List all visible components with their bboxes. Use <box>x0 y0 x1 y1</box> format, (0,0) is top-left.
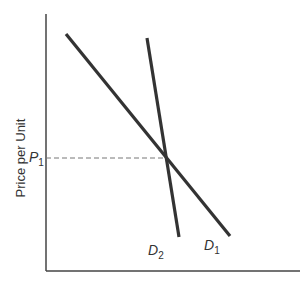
demand-curve-d1 <box>66 34 230 236</box>
p1-label: P1 <box>29 149 44 168</box>
d2-label: D2 <box>148 242 164 261</box>
d1-label: D1 <box>204 237 220 256</box>
y-axis-label: Price per Unit <box>13 118 28 197</box>
demand-chart: Price per Unit P1 D2 D1 <box>0 0 302 291</box>
